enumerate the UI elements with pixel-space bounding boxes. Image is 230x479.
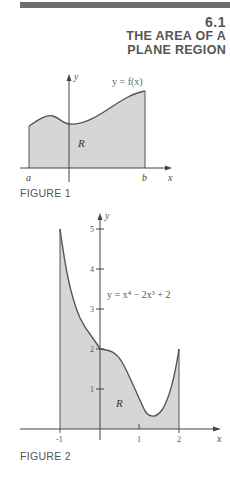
x-axis-label: x [216,433,222,444]
region-label: R [115,397,123,409]
y-tick-3: 3 [90,305,94,314]
y-tick-1: 1 [90,385,94,394]
x-tick-2: 2 [177,435,181,444]
y-tick-5: 5 [90,225,94,234]
figure-2: 5 4 3 2 1 -1 1 2 y x y = x⁴ − 2x³ + 2 R [0,0,230,479]
y-axis-label: y [104,210,110,221]
y-axis-arrow-icon [98,213,103,220]
x-tick-minus1: -1 [56,435,63,444]
x-axis-arrow-icon [213,427,221,432]
figure-2-caption: FIGURE 2 [20,450,71,462]
curve-label: y = x⁴ − 2x³ + 2 [107,289,170,300]
x-tick-1: 1 [137,435,141,444]
y-tick-4: 4 [90,265,94,274]
y-tick-2: 2 [90,345,94,354]
